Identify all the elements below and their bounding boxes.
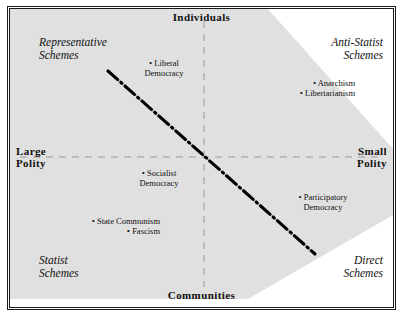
data-point-label-line1: State Communism bbox=[97, 216, 160, 226]
bullet-icon: • bbox=[127, 226, 130, 236]
diagram-plot-area: Individuals Communities Large Polity Sma… bbox=[10, 9, 393, 307]
data-point-liberal-democracy: • Liberal Democracy bbox=[118, 59, 210, 79]
bullet-icon: • bbox=[300, 88, 303, 98]
data-point-label-line1: Participatory bbox=[304, 192, 348, 202]
quadrant-label-representative-schemes: Representative Schemes bbox=[39, 36, 107, 62]
bullet-icon: • bbox=[92, 216, 95, 226]
data-point-label-line1: Socialist bbox=[147, 168, 176, 178]
data-point-participatory-democracy: • Participatory Democracy bbox=[263, 193, 383, 213]
data-point-libertarianism: • Libertarianism bbox=[235, 89, 355, 99]
bullet-icon: • bbox=[313, 78, 316, 88]
data-point-label-line2: Democracy bbox=[303, 202, 342, 212]
quadrant-label-direct-schemes: Direct Schemes bbox=[253, 254, 383, 280]
axis-label-small-polity: Small Polity bbox=[313, 146, 387, 169]
diagram-canvas: Individuals Communities Large Polity Sma… bbox=[0, 0, 404, 318]
data-point-fascism: • Fascism bbox=[60, 227, 160, 237]
data-point-label-line1: Liberal bbox=[154, 58, 179, 68]
data-point-label-line1: Fascism bbox=[132, 226, 160, 236]
bullet-icon: • bbox=[298, 192, 301, 202]
data-point-socialist-democracy: • Socialist Democracy bbox=[113, 169, 205, 189]
data-point-label-line2: Democracy bbox=[139, 178, 178, 188]
bullet-icon: • bbox=[142, 168, 145, 178]
data-point-label-line1: Anarchism bbox=[318, 78, 355, 88]
axis-label-individuals: Individuals bbox=[10, 12, 393, 24]
axis-label-large-polity: Large Polity bbox=[16, 146, 46, 169]
quadrant-label-anti-statist-schemes: Anti-Statist Schemes bbox=[253, 36, 383, 62]
axis-label-communities: Communities bbox=[10, 290, 393, 302]
bullet-icon: • bbox=[149, 58, 152, 68]
data-point-label-line1: Libertarianism bbox=[305, 88, 355, 98]
data-point-label-line2: Democracy bbox=[144, 68, 183, 78]
quadrant-label-statist-schemes: Statist Schemes bbox=[39, 254, 79, 280]
